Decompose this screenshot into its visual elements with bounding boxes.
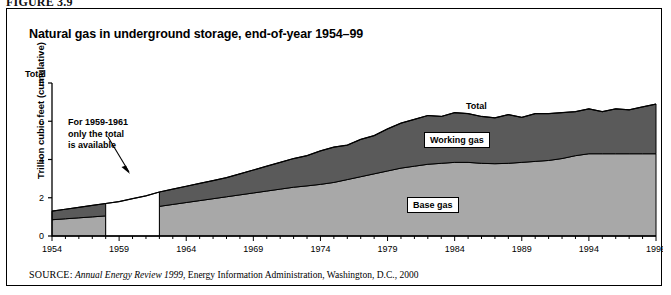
plot-area: 0246819541959196419691974197919841989199… [7,9,663,287]
series-label-total: Total [466,101,487,111]
x-tick-label: 1969 [243,244,263,254]
annotation-arrow [108,137,130,174]
x-tick-label: 1959 [109,244,129,254]
area-chart-svg: 0246819541959196419691974197919841989199… [7,9,663,287]
y-tick-label: 2 [39,193,44,203]
source-title: Annual Energy Review 1999 [75,270,183,280]
y-tick-label: 6 [39,117,44,127]
series-layer [52,104,656,236]
figure-frame: Natural gas in underground storage, end-… [6,8,662,286]
x-tick-label: 1984 [445,244,465,254]
y-tick-label: 0 [39,231,44,241]
x-tick-label: 1979 [378,244,398,254]
y-tick-label: 4 [39,155,44,165]
x-tick-label: 1964 [176,244,196,254]
x-tick-label: 1999 [646,244,663,254]
x-tick-label: 1989 [512,244,532,254]
x-tick-label: 1954 [42,244,62,254]
x-tick-label: 1974 [310,244,330,254]
series-label-working-gas: Working gas [424,132,490,148]
series-label-base-gas: Base gas [407,197,459,213]
y-tick-label: 8 [39,78,44,88]
x-tick-label: 1994 [579,244,599,254]
source-key: SOURCE: [29,269,73,280]
source-note: SOURCE: Annual Energy Review 1999, Energ… [29,269,418,280]
source-rest: , Energy Information Administration, Was… [183,270,418,280]
